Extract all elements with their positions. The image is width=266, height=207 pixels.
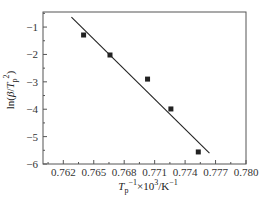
x-tick-label: 0.765 bbox=[81, 166, 106, 178]
data-points bbox=[81, 33, 201, 155]
x-axis-ticks: 0.7620.7650.7680.7710.7740.7770.780 bbox=[48, 160, 259, 178]
chart: 0.7620.7650.7680.7710.7740.7770.780 −1−2… bbox=[0, 0, 266, 207]
data-point-square bbox=[81, 33, 86, 38]
fit-line bbox=[71, 17, 209, 153]
x-tick-label: 0.777 bbox=[203, 166, 228, 178]
x-tick-label: 0.774 bbox=[173, 166, 198, 178]
y-tick-label: −6 bbox=[26, 158, 38, 170]
y-axis-label: ln(β/Tp2) bbox=[2, 70, 19, 109]
y-axis-ticks: −1−2−3−4−5−6 bbox=[26, 13, 47, 170]
y-tick-label: −2 bbox=[26, 48, 38, 60]
x-tick-label: 0.768 bbox=[112, 166, 137, 178]
x-tick-label: 0.771 bbox=[142, 166, 167, 178]
y-tick-label: −4 bbox=[26, 103, 38, 115]
data-point-square bbox=[107, 52, 112, 57]
linear-fit-line bbox=[71, 17, 209, 153]
x-axis-label: Tp−1×103/K−1 bbox=[118, 178, 177, 195]
data-point-square bbox=[196, 149, 201, 154]
data-point-square bbox=[145, 77, 150, 82]
plot-border bbox=[43, 12, 246, 164]
plot-frame bbox=[43, 12, 246, 164]
y-tick-label: −1 bbox=[26, 21, 38, 33]
y-tick-label: −5 bbox=[26, 131, 38, 143]
x-tick-label: 0.780 bbox=[234, 166, 259, 178]
y-tick-label: −3 bbox=[26, 76, 38, 88]
x-tick-label: 0.762 bbox=[51, 166, 76, 178]
data-point-square bbox=[168, 106, 173, 111]
